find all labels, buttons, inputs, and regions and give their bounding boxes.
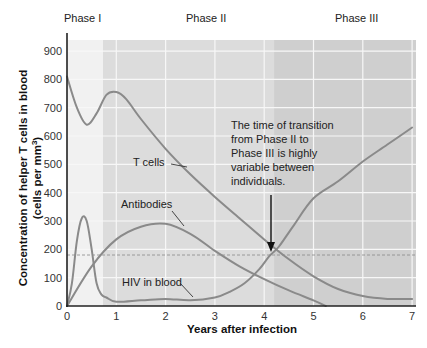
x-tick-5: 5 bbox=[310, 310, 316, 322]
y-tick-900: 900 bbox=[44, 45, 62, 57]
y-axis-title-line2: (cells per mm3) bbox=[30, 137, 43, 220]
y-tick-300: 300 bbox=[44, 215, 62, 227]
phase-labels: Phase IPhase IIPhase III bbox=[64, 12, 378, 24]
y-tick-200: 200 bbox=[44, 243, 62, 255]
y-tick-400: 400 bbox=[44, 187, 62, 199]
y-tick-800: 800 bbox=[44, 73, 62, 85]
annotation-line-4: variable between bbox=[231, 161, 314, 173]
annotation-line-2: from Phase II to bbox=[231, 133, 309, 145]
y-axis-title-line1: Concentration of helper T cells in blood bbox=[17, 70, 29, 287]
y-tick-0: 0 bbox=[56, 300, 62, 312]
annotation-line-3: Phase III is highly bbox=[231, 147, 318, 159]
y-tick-100: 100 bbox=[44, 272, 62, 284]
x-tick-4: 4 bbox=[261, 310, 267, 322]
antibodies-label: Antibodies bbox=[121, 198, 173, 210]
phase-label-2: Phase II bbox=[186, 12, 226, 24]
annotation-line-5: individuals. bbox=[231, 175, 285, 187]
x-tick-0: 0 bbox=[64, 310, 70, 322]
chart: Phase IPhase IIPhase III 010020030040050… bbox=[0, 0, 427, 348]
phase-label-3: Phase III bbox=[335, 12, 378, 24]
annotation-line-1: The time of transition bbox=[231, 119, 334, 131]
x-tick-6: 6 bbox=[360, 310, 366, 322]
y-tick-700: 700 bbox=[44, 102, 62, 114]
y-tick-500: 500 bbox=[44, 158, 62, 170]
t-cells-label: T cells bbox=[133, 156, 165, 168]
phase-label-1: Phase I bbox=[64, 12, 101, 24]
y-tick-600: 600 bbox=[44, 130, 62, 142]
hiv-label: HIV in blood bbox=[122, 276, 182, 288]
x-tick-labels: 01234567 bbox=[64, 310, 415, 322]
x-tick-2: 2 bbox=[163, 310, 169, 322]
x-tick-7: 7 bbox=[409, 310, 415, 322]
x-tick-3: 3 bbox=[212, 310, 218, 322]
y-tick-labels: 0100200300400500600700800900 bbox=[44, 45, 62, 312]
x-axis-title: Years after infection bbox=[187, 323, 297, 335]
x-tick-1: 1 bbox=[113, 310, 119, 322]
